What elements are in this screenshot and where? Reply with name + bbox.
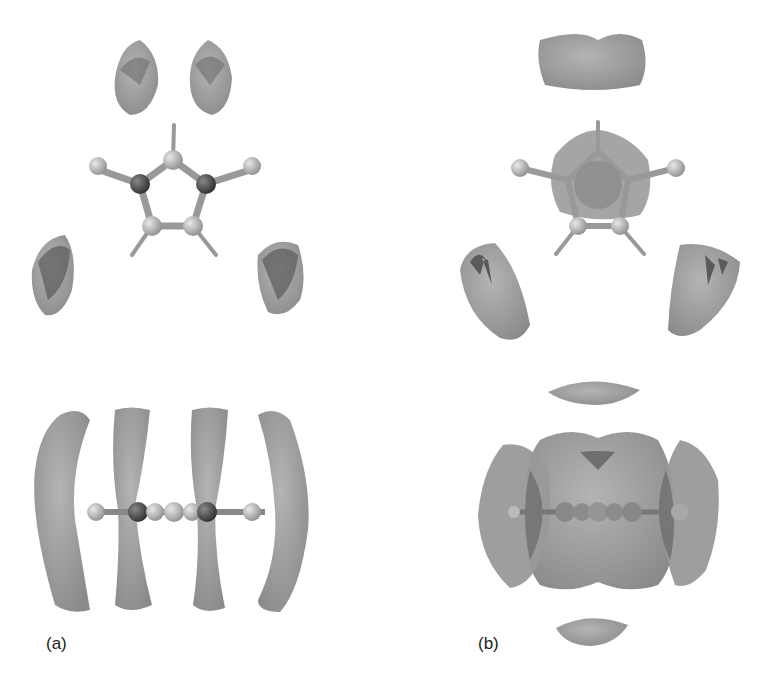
atom xyxy=(197,502,217,522)
orbital-lobe xyxy=(556,618,628,646)
orbital-lobe xyxy=(548,381,640,405)
atom xyxy=(142,216,162,236)
panel-label-b: (b) xyxy=(478,634,499,654)
atom xyxy=(130,174,150,194)
atom xyxy=(87,503,105,521)
atom xyxy=(183,216,203,236)
orbital-lobe xyxy=(34,411,90,612)
atom xyxy=(667,159,685,177)
atom xyxy=(611,217,629,235)
atom xyxy=(243,157,261,175)
orbital-lobe xyxy=(668,244,740,336)
orbital-lobe xyxy=(258,411,309,612)
atom xyxy=(511,159,529,177)
molecule-bonds xyxy=(100,125,250,255)
orbital-lobe xyxy=(460,243,530,340)
atom xyxy=(89,157,107,175)
panel-b-side-view xyxy=(478,381,719,646)
atom xyxy=(243,503,261,521)
panel-a-side-view xyxy=(34,408,308,613)
atom xyxy=(555,502,575,522)
panel-b-top-view xyxy=(460,34,740,340)
atom xyxy=(196,174,216,194)
figure-canvas xyxy=(0,0,768,678)
atom xyxy=(569,217,587,235)
atom xyxy=(163,150,183,170)
atom xyxy=(622,502,642,522)
panel-label-a: (a) xyxy=(46,634,67,654)
atom xyxy=(146,503,164,521)
atom xyxy=(164,502,184,522)
atom xyxy=(605,503,623,521)
atom xyxy=(671,503,689,521)
orbital-lobe xyxy=(538,34,645,90)
panel-a-top-view xyxy=(32,40,304,315)
atom xyxy=(128,502,148,522)
